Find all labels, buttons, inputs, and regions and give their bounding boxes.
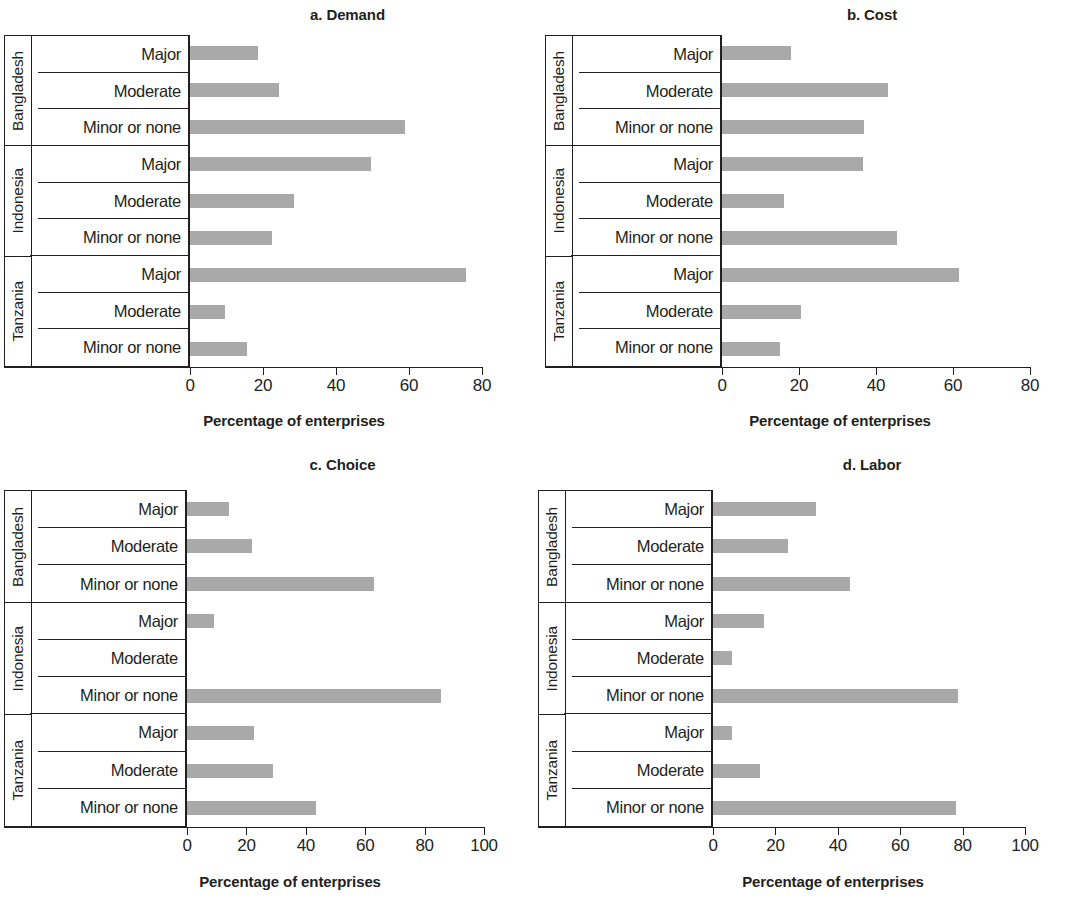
bar-row — [722, 256, 1030, 293]
bar-row — [722, 146, 1030, 183]
panel-c-title: c. Choice — [0, 456, 535, 473]
bar-row — [187, 752, 484, 789]
panel-b-country-column: Bangladesh Indonesia Tanzania — [546, 36, 572, 366]
bar — [713, 651, 732, 665]
panel-d-country-tanzania: Tanzania — [539, 715, 565, 826]
bar — [713, 726, 732, 740]
axis-tick-label: 60 — [356, 836, 374, 856]
country-label: Bangladesh — [10, 507, 26, 587]
bar — [713, 502, 816, 516]
bar-row — [187, 527, 484, 564]
bar — [713, 614, 764, 628]
axis-tick — [365, 827, 366, 835]
severity-label-cell: Minor or none — [32, 329, 188, 366]
axis-tick-label: 40 — [829, 836, 847, 856]
bar-row — [190, 219, 482, 256]
axis-tick-label: 80 — [953, 836, 971, 856]
country-label: Bangladesh — [551, 51, 567, 131]
axis-tick — [876, 367, 877, 375]
panel-d-bar-area — [713, 490, 1025, 827]
panel-a-severity-column: Major Moderate Minor or none Major Moder… — [31, 36, 188, 366]
bar — [187, 539, 252, 553]
axis-tick — [838, 827, 839, 835]
bar — [722, 194, 784, 208]
country-label: Tanzania — [10, 281, 26, 341]
bar-row — [713, 527, 1025, 564]
severity-label-cell: Major — [32, 714, 185, 751]
panel-a-demand: a. Demand Bangladesh Indonesia Tanzania … — [0, 0, 535, 450]
bar-row — [187, 715, 484, 752]
panel-b-country-indonesia: Indonesia — [546, 146, 572, 256]
panel-d-labor: d. Labor Bangladesh Indonesia Tanzania M… — [535, 450, 1069, 905]
country-label: Indonesia — [551, 168, 567, 233]
axis-tick — [336, 367, 337, 375]
panel-a-axis-title: Percentage of enterprises — [203, 412, 385, 429]
axis-tick-label: 0 — [185, 376, 194, 396]
panel-b-x-axis: 020406080 — [545, 367, 1030, 401]
severity-label-cell: Minor or none — [573, 219, 720, 256]
bar — [722, 305, 801, 319]
country-label: Tanzania — [544, 740, 560, 800]
country-label: Indonesia — [10, 626, 26, 691]
four-panel-bar-chart-figure: a. Demand Bangladesh Indonesia Tanzania … — [0, 0, 1069, 905]
severity-label-cell: Major — [573, 146, 720, 183]
panel-a-country-bangladesh: Bangladesh — [5, 36, 31, 146]
bar-row — [713, 790, 1025, 827]
axis-tick-label: 20 — [790, 376, 808, 396]
panel-c-choice: c. Choice Bangladesh Indonesia Tanzania … — [0, 450, 535, 905]
bar-row — [190, 330, 482, 367]
axis-tick — [722, 367, 723, 375]
bar-row — [722, 109, 1030, 146]
bar — [713, 539, 788, 553]
severity-label-cell: Major — [573, 36, 720, 73]
axis-tick — [775, 827, 776, 835]
bar — [190, 157, 371, 171]
axis-tick-label: 100 — [1011, 836, 1038, 856]
axis-tick-label: 100 — [470, 836, 497, 856]
bar-row — [187, 565, 484, 602]
panel-b-severity-column: Major Moderate Minor or none Major Moder… — [572, 36, 720, 366]
bar-row — [187, 790, 484, 827]
severity-label-cell: Moderate — [573, 293, 720, 330]
bar — [187, 726, 254, 740]
bar-row — [187, 640, 484, 677]
severity-label-cell: Moderate — [32, 73, 188, 110]
bar-row — [722, 219, 1030, 256]
axis-tick — [799, 367, 800, 375]
severity-label-cell: Minor or none — [32, 109, 188, 146]
panel-c-country-column: Bangladesh Indonesia Tanzania — [5, 491, 31, 826]
severity-label-cell: Minor or none — [32, 565, 185, 602]
axis-tick — [409, 367, 410, 375]
bar — [190, 83, 279, 97]
axis-tick — [190, 367, 191, 375]
severity-label-cell: Major — [32, 491, 185, 528]
panel-b-country-tanzania: Tanzania — [546, 257, 572, 366]
bar — [190, 305, 225, 319]
axis-line — [545, 367, 1030, 368]
axis-tick-label: 80 — [415, 836, 433, 856]
bar-row — [190, 109, 482, 146]
bar-row — [713, 677, 1025, 714]
axis-tick — [306, 827, 307, 835]
bar — [190, 194, 294, 208]
axis-tick — [900, 827, 901, 835]
severity-label-cell: Major — [32, 146, 188, 183]
panel-c-country-indonesia: Indonesia — [5, 603, 31, 715]
severity-label-cell: Moderate — [32, 528, 185, 565]
panel-d-country-indonesia: Indonesia — [539, 603, 565, 715]
panel-a-bar-area — [190, 35, 482, 367]
panel-b-label-table: Bangladesh Indonesia Tanzania Major Mode… — [545, 35, 722, 367]
panel-a-label-table: Bangladesh Indonesia Tanzania Major Mode… — [4, 35, 190, 367]
severity-label-cell: Minor or none — [32, 219, 188, 256]
panel-b-title: b. Cost — [535, 6, 1069, 23]
axis-tick — [246, 827, 247, 835]
severity-label-cell: Minor or none — [573, 109, 720, 146]
bar — [190, 342, 247, 356]
axis-tick-label: 40 — [327, 376, 345, 396]
panel-c-bar-area — [187, 490, 484, 827]
panel-d-country-bangladesh: Bangladesh — [539, 491, 565, 603]
axis-line — [538, 827, 1025, 828]
panel-c-x-axis: 020406080100 — [4, 827, 484, 861]
bar-row — [713, 602, 1025, 639]
panel-a-country-indonesia: Indonesia — [5, 146, 31, 256]
